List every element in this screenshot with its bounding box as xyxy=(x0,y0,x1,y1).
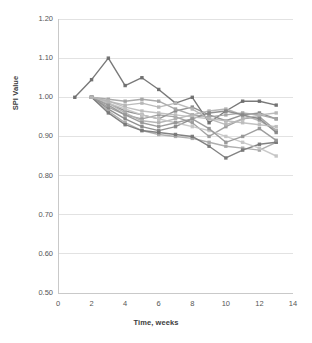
data-point-marker xyxy=(140,109,143,112)
data-point-marker xyxy=(140,113,143,116)
spi-value-line-chart: 0.500.600.700.800.901.001.101.20 0246810… xyxy=(0,0,312,343)
data-point-marker xyxy=(224,141,227,144)
data-point-marker xyxy=(157,117,160,120)
data-point-marker xyxy=(241,113,244,116)
data-point-marker xyxy=(224,135,227,138)
data-point-marker xyxy=(107,111,110,114)
data-point-marker xyxy=(157,88,160,91)
data-point-marker xyxy=(258,143,261,146)
data-point-marker xyxy=(107,103,110,106)
x-tick-label: 6 xyxy=(147,299,171,308)
y-axis-title: SPI Value xyxy=(11,58,20,128)
data-point-marker xyxy=(140,76,143,79)
data-point-marker xyxy=(174,121,177,124)
data-point-marker xyxy=(174,107,177,110)
y-tick-label: 0.60 xyxy=(27,249,53,258)
data-point-marker xyxy=(174,101,177,104)
data-point-marker xyxy=(123,113,126,116)
y-tick-label: 0.80 xyxy=(27,171,53,180)
data-point-marker xyxy=(123,103,126,106)
data-point-marker xyxy=(207,117,210,120)
data-point-marker xyxy=(140,98,143,101)
data-point-marker xyxy=(224,119,227,122)
y-tick-label: 1.10 xyxy=(27,53,53,62)
data-point-marker xyxy=(224,109,227,112)
data-point-marker xyxy=(123,123,126,126)
data-point-marker xyxy=(157,131,160,134)
data-point-marker xyxy=(258,123,261,126)
data-point-marker xyxy=(258,127,261,130)
data-point-marker xyxy=(207,127,210,130)
y-tick-label: 0.90 xyxy=(27,131,53,140)
data-point-marker xyxy=(224,156,227,159)
data-point-marker xyxy=(191,117,194,120)
data-point-marker xyxy=(207,135,210,138)
data-point-marker xyxy=(241,121,244,124)
data-point-marker xyxy=(123,100,126,103)
data-point-marker xyxy=(157,121,160,124)
data-point-marker xyxy=(275,117,278,120)
data-point-marker xyxy=(140,129,143,132)
data-point-marker xyxy=(275,125,278,128)
data-point-marker xyxy=(157,125,160,128)
x-tick-label: 10 xyxy=(214,299,238,308)
x-tick-label: 12 xyxy=(247,299,271,308)
data-point-marker xyxy=(157,100,160,103)
data-point-marker xyxy=(207,121,210,124)
data-point-marker xyxy=(123,107,126,110)
data-point-marker xyxy=(224,145,227,148)
data-point-marker xyxy=(241,148,244,151)
y-tick-label: 1.20 xyxy=(27,14,53,23)
data-point-marker xyxy=(207,145,210,148)
data-point-marker xyxy=(241,141,244,144)
data-point-marker xyxy=(90,96,93,99)
data-point-marker xyxy=(275,131,278,134)
axis-lines xyxy=(58,19,293,293)
data-point-marker xyxy=(275,139,278,142)
data-point-marker xyxy=(73,96,76,99)
data-point-marker xyxy=(107,56,110,59)
data-point-marker xyxy=(157,111,160,114)
y-tick-label: 0.50 xyxy=(27,288,53,297)
y-tick-label: 1.00 xyxy=(27,92,53,101)
data-point-marker xyxy=(191,125,194,128)
data-point-marker xyxy=(90,78,93,81)
data-point-marker xyxy=(123,84,126,87)
data-point-marker xyxy=(275,103,278,106)
gridlines xyxy=(58,19,293,293)
data-point-marker xyxy=(107,100,110,103)
data-point-marker xyxy=(207,111,210,114)
data-point-marker xyxy=(191,135,194,138)
x-tick-label: 2 xyxy=(80,299,104,308)
y-tick-label: 0.70 xyxy=(27,210,53,219)
data-point-marker xyxy=(241,100,244,103)
data-point-marker xyxy=(258,117,261,120)
x-axis-title: Time, weeks xyxy=(0,318,312,327)
x-tick-label: 0 xyxy=(46,299,70,308)
data-point-marker xyxy=(275,154,278,157)
data-point-marker xyxy=(241,117,244,120)
data-point-marker xyxy=(275,111,278,114)
data-point-marker xyxy=(174,117,177,120)
data-point-marker xyxy=(241,135,244,138)
data-point-marker xyxy=(140,101,143,104)
data-point-marker xyxy=(174,113,177,116)
data-point-marker xyxy=(224,123,227,126)
series-layer xyxy=(73,56,278,159)
data-point-marker xyxy=(258,100,261,103)
data-point-marker xyxy=(174,125,177,128)
data-point-marker xyxy=(191,107,194,110)
data-point-marker xyxy=(191,96,194,99)
data-point-marker xyxy=(258,146,261,149)
data-point-marker xyxy=(140,121,143,124)
data-point-marker xyxy=(157,105,160,108)
data-point-marker xyxy=(174,133,177,136)
x-tick-label: 4 xyxy=(113,299,137,308)
data-point-marker xyxy=(207,141,210,144)
x-tick-label: 14 xyxy=(281,299,305,308)
data-point-marker xyxy=(191,121,194,124)
data-point-marker xyxy=(140,125,143,128)
data-point-marker xyxy=(224,113,227,116)
data-point-marker xyxy=(123,117,126,120)
x-tick-label: 8 xyxy=(180,299,204,308)
